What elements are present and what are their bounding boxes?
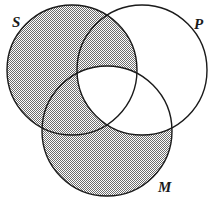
region-m-only-shading xyxy=(0,0,216,203)
venn-diagram-figure: S P M xyxy=(0,0,216,203)
venn-diagram-svg xyxy=(0,0,216,203)
set-label-m: M xyxy=(158,180,171,195)
shaded-regions-group xyxy=(0,0,216,203)
set-label-p: P xyxy=(194,17,203,32)
set-label-s: S xyxy=(12,15,20,30)
